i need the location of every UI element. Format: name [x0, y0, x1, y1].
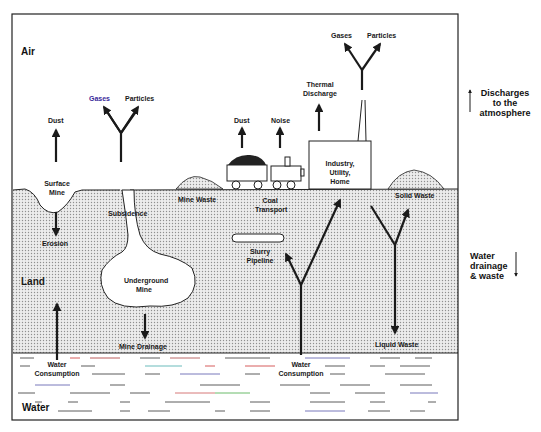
- zone-land-label: Land: [21, 276, 45, 287]
- slurry-pipeline-label: Slurry Pipeline: [245, 247, 275, 265]
- water-consumption-left-label: Water Consumption: [33, 360, 81, 378]
- particles-left-label: Particles: [125, 94, 154, 103]
- coal-transport-label: Coal Transport: [255, 196, 285, 214]
- thermal-discharge-label: Thermal Discharge: [302, 80, 338, 98]
- gases-left-label: Gases: [89, 94, 110, 103]
- land-region: [13, 189, 458, 353]
- erosion-label: Erosion: [42, 239, 68, 248]
- dust-surface-label: Dust: [48, 116, 64, 125]
- discharges-legend: Discharges to the atmosphere: [474, 88, 536, 118]
- zone-air-label: Air: [21, 46, 35, 57]
- slurry-pipeline: [232, 234, 284, 242]
- surface-mine-label: Surface Mine: [44, 179, 70, 197]
- gases-right-label: Gases: [331, 31, 352, 40]
- dust-transport-label: Dust: [234, 116, 250, 125]
- mine-drainage-label: Mine Drainage: [119, 342, 167, 351]
- liquid-waste-label: Liquid Waste: [375, 340, 418, 349]
- underground-mine-label: Underground Mine: [124, 276, 164, 294]
- industry-label: Industry, Utility, Home: [322, 159, 358, 186]
- zone-water-label: Water: [22, 402, 49, 413]
- diagram-canvas: [0, 0, 541, 432]
- locomotive: [271, 157, 304, 189]
- solid-waste-label: Solid Waste: [395, 191, 434, 200]
- solid-waste-pile: [388, 170, 444, 189]
- water-consumption-right-label: Water Consumption: [277, 360, 325, 378]
- noise-label: Noise: [271, 116, 290, 125]
- coal-car: [227, 155, 267, 189]
- subsidence-label: Subsidence: [108, 209, 147, 218]
- drainage-legend: Water drainage & waste: [470, 251, 512, 281]
- mine-waste-pile: [176, 177, 223, 190]
- mine-waste-label: Mine Waste: [178, 195, 216, 204]
- particles-right-label: Particles: [367, 31, 396, 40]
